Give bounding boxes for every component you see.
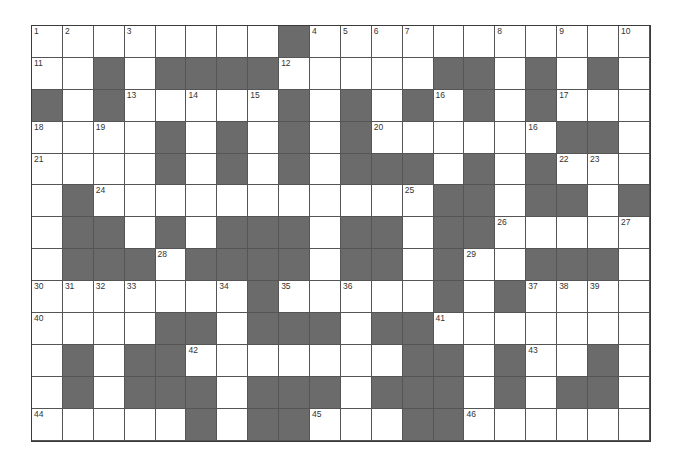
crossword-cell[interactable]: 38 [557, 281, 588, 313]
crossword-cell[interactable] [186, 122, 217, 154]
crossword-cell[interactable] [495, 58, 526, 90]
crossword-cell[interactable]: 26 [495, 217, 526, 249]
crossword-cell[interactable] [125, 217, 156, 249]
crossword-cell[interactable] [186, 185, 217, 217]
crossword-cell[interactable] [619, 122, 650, 154]
crossword-cell[interactable] [557, 409, 588, 441]
crossword-cell[interactable] [310, 281, 341, 313]
crossword-cell[interactable] [403, 249, 434, 281]
crossword-cell[interactable] [434, 122, 465, 154]
crossword-cell[interactable]: 28 [156, 249, 187, 281]
crossword-cell[interactable] [588, 217, 619, 249]
crossword-cell[interactable]: 11 [32, 58, 63, 90]
crossword-cell[interactable]: 37 [526, 281, 557, 313]
crossword-cell[interactable] [464, 122, 495, 154]
crossword-cell[interactable] [403, 281, 434, 313]
crossword-cell[interactable] [464, 26, 495, 58]
crossword-cell[interactable]: 31 [63, 281, 94, 313]
crossword-cell[interactable] [619, 377, 650, 409]
crossword-cell[interactable] [217, 90, 248, 122]
crossword-cell[interactable] [125, 409, 156, 441]
crossword-cell[interactable] [557, 217, 588, 249]
crossword-cell[interactable] [526, 217, 557, 249]
crossword-cell[interactable] [125, 154, 156, 186]
crossword-cell[interactable]: 33 [125, 281, 156, 313]
crossword-cell[interactable]: 14 [186, 90, 217, 122]
crossword-cell[interactable] [248, 345, 279, 377]
crossword-cell[interactable] [63, 313, 94, 345]
crossword-cell[interactable]: 2 [63, 26, 94, 58]
crossword-cell[interactable]: 36 [341, 281, 372, 313]
crossword-cell[interactable] [464, 345, 495, 377]
crossword-cell[interactable] [156, 90, 187, 122]
crossword-cell[interactable] [619, 90, 650, 122]
crossword-cell[interactable]: 18 [32, 122, 63, 154]
crossword-cell[interactable] [125, 122, 156, 154]
crossword-cell[interactable] [310, 249, 341, 281]
crossword-cell[interactable] [464, 313, 495, 345]
crossword-cell[interactable]: 44 [32, 409, 63, 441]
crossword-cell[interactable] [217, 185, 248, 217]
crossword-cell[interactable]: 1 [32, 26, 63, 58]
crossword-cell[interactable] [310, 90, 341, 122]
crossword-cell[interactable]: 29 [464, 249, 495, 281]
crossword-cell[interactable] [156, 281, 187, 313]
crossword-cell[interactable] [94, 409, 125, 441]
crossword-cell[interactable] [310, 345, 341, 377]
crossword-cell[interactable] [279, 345, 310, 377]
crossword-cell[interactable] [248, 122, 279, 154]
crossword-cell[interactable] [403, 58, 434, 90]
crossword-cell[interactable] [526, 313, 557, 345]
crossword-cell[interactable]: 27 [619, 217, 650, 249]
crossword-cell[interactable] [403, 122, 434, 154]
crossword-cell[interactable] [495, 154, 526, 186]
crossword-cell[interactable] [279, 185, 310, 217]
crossword-cell[interactable] [217, 26, 248, 58]
crossword-cell[interactable] [217, 377, 248, 409]
crossword-cell[interactable] [557, 313, 588, 345]
crossword-cell[interactable] [32, 249, 63, 281]
crossword-cell[interactable] [32, 345, 63, 377]
crossword-cell[interactable]: 42 [186, 345, 217, 377]
crossword-cell[interactable] [372, 58, 403, 90]
crossword-cell[interactable]: 4 [310, 26, 341, 58]
crossword-cell[interactable] [186, 217, 217, 249]
crossword-cell[interactable] [63, 90, 94, 122]
crossword-cell[interactable]: 7 [403, 26, 434, 58]
crossword-cell[interactable] [619, 345, 650, 377]
crossword-cell[interactable] [341, 345, 372, 377]
crossword-cell[interactable] [434, 26, 465, 58]
crossword-cell[interactable]: 21 [32, 154, 63, 186]
crossword-cell[interactable] [94, 345, 125, 377]
crossword-cell[interactable] [372, 185, 403, 217]
crossword-cell[interactable] [341, 409, 372, 441]
crossword-cell[interactable] [495, 185, 526, 217]
crossword-cell[interactable]: 24 [94, 185, 125, 217]
crossword-cell[interactable]: 16 [526, 122, 557, 154]
crossword-cell[interactable] [526, 26, 557, 58]
crossword-cell[interactable] [619, 281, 650, 313]
crossword-cell[interactable]: 22 [557, 154, 588, 186]
crossword-cell[interactable] [186, 26, 217, 58]
crossword-cell[interactable] [248, 26, 279, 58]
crossword-cell[interactable] [495, 249, 526, 281]
crossword-cell[interactable] [94, 313, 125, 345]
crossword-cell[interactable]: 16 [434, 90, 465, 122]
crossword-cell[interactable] [156, 26, 187, 58]
crossword-cell[interactable]: 39 [588, 281, 619, 313]
crossword-cell[interactable] [403, 217, 434, 249]
crossword-cell[interactable] [217, 313, 248, 345]
crossword-cell[interactable] [464, 377, 495, 409]
crossword-cell[interactable]: 41 [434, 313, 465, 345]
crossword-cell[interactable]: 34 [217, 281, 248, 313]
crossword-cell[interactable]: 13 [125, 90, 156, 122]
crossword-cell[interactable] [495, 122, 526, 154]
crossword-cell[interactable] [588, 26, 619, 58]
crossword-cell[interactable] [619, 58, 650, 90]
crossword-cell[interactable] [125, 313, 156, 345]
crossword-cell[interactable] [63, 58, 94, 90]
crossword-cell[interactable] [156, 409, 187, 441]
crossword-cell[interactable]: 20 [372, 122, 403, 154]
crossword-cell[interactable] [557, 345, 588, 377]
crossword-cell[interactable]: 10 [619, 26, 650, 58]
